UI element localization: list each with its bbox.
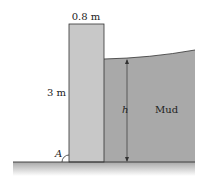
pivot-label: A xyxy=(54,148,62,159)
mud-label: Mud xyxy=(155,104,179,115)
retaining-wall-diagram: 0.8 m 3 m h Mud A xyxy=(0,0,203,178)
pivot-arc-icon xyxy=(62,155,69,162)
ground-shading xyxy=(13,162,195,176)
mud-depth-label: h xyxy=(122,104,128,115)
wall-width-label: 0.8 m xyxy=(72,11,101,22)
mud-region xyxy=(104,50,195,162)
wall xyxy=(69,24,104,162)
wall-height-label: 3 m xyxy=(47,87,67,98)
